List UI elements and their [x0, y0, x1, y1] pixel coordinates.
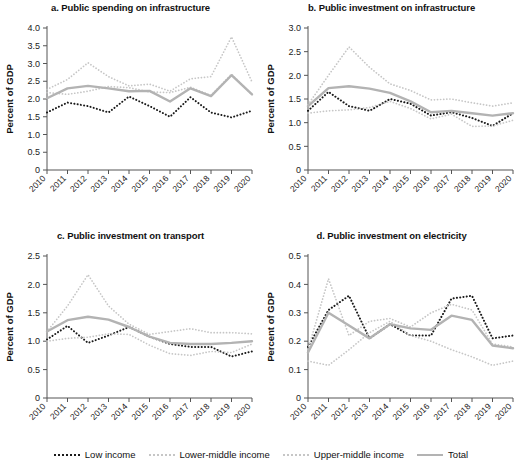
- x-tick-label: 2013: [88, 173, 109, 194]
- x-tick-label: 2014: [370, 173, 391, 194]
- x-tick-label: 2018: [452, 401, 473, 422]
- x-tick-label: 2015: [390, 173, 411, 194]
- legend-label-lower-middle-income: Lower-middle income: [180, 449, 270, 460]
- x-tick-label: 2012: [68, 401, 89, 422]
- x-tick-label: 2019: [472, 401, 493, 422]
- y-tick-label: 1.5: [288, 94, 301, 104]
- legend-item-lower-middle-income: Lower-middle income: [149, 449, 270, 460]
- y-tick-label: 0.2: [288, 336, 301, 346]
- x-tick-label: 2010: [27, 173, 48, 194]
- series-total: [47, 317, 252, 344]
- panel-a: a. Public spending on infrastructure Per…: [0, 0, 261, 228]
- legend-swatch-total: [417, 454, 443, 456]
- x-tick-label: 2012: [329, 173, 350, 194]
- y-tick-label: 2.0: [288, 71, 301, 81]
- y-tick-label: 1.5: [27, 112, 40, 122]
- legend-swatch-upper-middle-income: [283, 454, 309, 456]
- y-axis-label: Percent of GDP: [265, 63, 276, 133]
- x-tick-label: 2019: [472, 173, 493, 194]
- x-tick-label: 2014: [109, 173, 130, 194]
- x-tick-label: 2016: [411, 401, 432, 422]
- legend-label-total: Total: [448, 449, 468, 460]
- x-tick-label: 2011: [309, 173, 329, 193]
- axis-lines: [47, 26, 252, 170]
- x-tick-label: 2018: [452, 173, 473, 194]
- x-tick-label: 2015: [390, 401, 411, 422]
- legend-swatch-low-income: [54, 454, 80, 456]
- x-tick-label: 2015: [129, 401, 150, 422]
- y-tick-label: 3.0: [288, 23, 301, 33]
- x-tick-label: 2016: [411, 173, 432, 194]
- figure-four-panel-chart: a. Public spending on infrastructure Per…: [0, 0, 522, 469]
- y-tick-label: 2.5: [288, 47, 301, 57]
- y-tick-label: 1.5: [27, 308, 40, 318]
- series-low-income: [47, 97, 252, 118]
- x-tick-label: 2019: [211, 173, 232, 194]
- panel-d-plot: Percent of GDP00.10.20.30.40.52010201120…: [261, 228, 522, 456]
- y-tick-label: 1.0: [288, 118, 301, 128]
- x-tick-label: 2011: [309, 401, 329, 421]
- y-tick-label: 1.0: [27, 336, 40, 346]
- y-tick-label: 2.5: [27, 76, 40, 86]
- panel-d: d. Public investment on electricity Perc…: [261, 228, 522, 456]
- y-axis-label: Percent of GDP: [265, 291, 276, 361]
- x-tick-label: 2020: [493, 401, 514, 422]
- x-tick-label: 2017: [431, 401, 452, 422]
- x-tick-label: 2014: [370, 401, 391, 422]
- series-upper-middle-income: [308, 279, 513, 350]
- panel-b: b. Public investment on infrastructure P…: [261, 0, 522, 228]
- y-tick-label: 3.5: [27, 41, 40, 51]
- y-tick-label: 2.0: [27, 94, 40, 104]
- x-tick-label: 2019: [211, 401, 232, 422]
- x-tick-label: 2012: [68, 173, 89, 194]
- x-tick-label: 2016: [150, 173, 171, 194]
- series-total: [308, 313, 513, 353]
- legend-swatch-lower-middle-income: [149, 454, 175, 456]
- y-axis-label: Percent of GDP: [4, 291, 15, 361]
- series-upper-middle-income: [308, 47, 513, 106]
- legend-item-upper-middle-income: Upper-middle income: [283, 449, 404, 460]
- chart-legend: Low incomeLower-middle incomeUpper-middl…: [0, 440, 522, 469]
- series-total: [47, 75, 252, 101]
- x-tick-label: 2020: [232, 173, 253, 194]
- y-tick-label: 2.5: [27, 251, 40, 261]
- x-tick-label: 2017: [170, 401, 191, 422]
- x-tick-label: 2011: [48, 173, 68, 193]
- y-axis-label: Percent of GDP: [4, 63, 15, 133]
- x-tick-label: 2010: [288, 401, 309, 422]
- y-tick-label: 0.5: [288, 251, 301, 261]
- axis-lines: [308, 254, 513, 398]
- y-tick-label: 0.5: [288, 142, 301, 152]
- x-tick-label: 2011: [48, 401, 68, 421]
- y-tick-label: 0.1: [288, 365, 301, 375]
- y-tick-label: 4.0: [27, 23, 40, 33]
- x-tick-label: 2018: [191, 401, 212, 422]
- x-tick-label: 2014: [109, 401, 130, 422]
- panel-a-plot: Percent of GDP00.51.01.52.02.53.03.54.02…: [0, 0, 261, 228]
- x-tick-label: 2013: [349, 173, 370, 194]
- y-tick-label: 3.0: [27, 59, 40, 69]
- y-tick-label: 2.0: [27, 280, 40, 290]
- x-tick-label: 2020: [493, 173, 514, 194]
- legend-label-upper-middle-income: Upper-middle income: [314, 449, 404, 460]
- x-tick-label: 2018: [191, 173, 212, 194]
- x-tick-label: 2016: [150, 401, 171, 422]
- y-tick-label: 0.5: [27, 365, 40, 375]
- series-low-income: [308, 296, 513, 347]
- y-tick-label: 0.3: [288, 308, 301, 318]
- panel-c-plot: Percent of GDP00.51.01.52.02.52010201120…: [0, 228, 261, 456]
- y-tick-label: 1.0: [27, 130, 40, 140]
- x-tick-label: 2017: [170, 173, 191, 194]
- x-tick-label: 2010: [27, 401, 48, 422]
- x-tick-label: 2017: [431, 173, 452, 194]
- y-tick-label: 0.5: [27, 147, 40, 157]
- series-upper-middle-income: [47, 37, 252, 91]
- x-tick-label: 2012: [329, 401, 350, 422]
- x-tick-label: 2010: [288, 173, 309, 194]
- x-tick-label: 2013: [88, 401, 109, 422]
- legend-label-low-income: Low income: [85, 449, 136, 460]
- legend-item-low-income: Low income: [54, 449, 136, 460]
- x-tick-label: 2020: [232, 401, 253, 422]
- x-tick-label: 2013: [349, 401, 370, 422]
- axis-lines: [47, 254, 252, 398]
